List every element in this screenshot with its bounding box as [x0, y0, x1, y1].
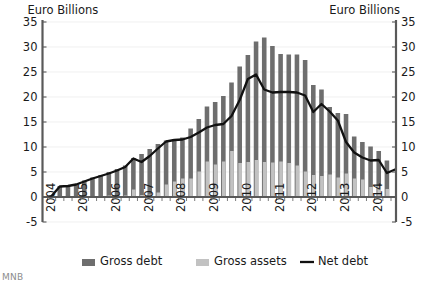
bar-gross-assets — [132, 190, 136, 198]
bar-gross-debt — [90, 178, 95, 198]
year-axis-label: 2014 — [371, 183, 385, 212]
bar-gross-debt — [98, 175, 103, 197]
bar-gross-assets — [222, 162, 226, 198]
right-axis-tick-label: 25 — [401, 65, 416, 79]
bar-gross-assets — [320, 176, 324, 197]
left-axis-tick-label: -5 — [26, 215, 37, 229]
year-axis-label: 2007 — [142, 183, 156, 212]
left-axis-unit-label: Euro Billions — [28, 3, 99, 17]
year-axis-label: 2010 — [240, 183, 254, 212]
right-axis-tick-label: 35 — [401, 15, 416, 29]
right-axis-tick-label: 0 — [401, 190, 408, 204]
source-note: MNB — [2, 272, 122, 283]
bar-gross-assets — [287, 163, 291, 197]
legend-swatch — [82, 259, 95, 266]
left-axis-tick-label: 30 — [23, 40, 38, 54]
year-axis-label: 2009 — [207, 183, 221, 212]
left-axis-tick-label: 25 — [23, 65, 38, 79]
legend-label: Gross assets — [214, 254, 287, 268]
bar-gross-assets — [353, 179, 357, 198]
bars-group — [49, 38, 389, 198]
legend-swatch — [196, 259, 209, 266]
left-axis-tick-label: 15 — [23, 115, 38, 129]
year-axis-label: 2012 — [305, 183, 319, 212]
bar-gross-debt — [123, 166, 128, 198]
bar-gross-assets — [328, 175, 332, 198]
year-axis-label: 2005 — [76, 183, 90, 212]
right-axis-tick-label: 10 — [401, 140, 416, 154]
right-axis-tick-label: 5 — [401, 165, 408, 179]
left-axis-tick-label: 0 — [30, 190, 37, 204]
legend-label: Gross debt — [100, 254, 163, 268]
year-axis-label: 2006 — [109, 183, 123, 212]
bar-gross-debt — [156, 144, 161, 197]
bar-gross-assets — [189, 179, 193, 198]
bar-gross-assets — [255, 160, 259, 197]
net-debt-chart: 3535303025252020151510105500-5-5Euro Bil… — [0, 0, 430, 287]
right-axis-tick-label: 20 — [401, 90, 416, 104]
year-axis-label: 2011 — [273, 183, 287, 212]
left-axis-tick-label: 20 — [23, 90, 38, 104]
bar-gross-assets — [361, 180, 365, 198]
bar-gross-assets — [386, 189, 390, 197]
year-axis-label: 2004 — [44, 183, 58, 212]
right-axis-tick-label: 15 — [401, 115, 416, 129]
left-axis-tick-label: 5 — [30, 165, 37, 179]
bar-gross-assets — [197, 172, 201, 198]
left-axis-tick-label: 10 — [23, 140, 38, 154]
left-axis-tick-label: 35 — [23, 15, 38, 29]
bar-gross-assets — [263, 162, 267, 197]
legend-label: Net debt — [318, 254, 369, 268]
right-axis-unit-label: Euro Billions — [329, 3, 400, 17]
bar-gross-assets — [165, 185, 169, 198]
chart-container: 3535303025252020151510105500-5-5Euro Bil… — [0, 0, 430, 287]
right-axis-tick-label: -5 — [401, 215, 412, 229]
bar-gross-assets — [296, 166, 300, 198]
right-axis-tick-label: 30 — [401, 40, 416, 54]
year-axis-label: 2013 — [338, 183, 352, 212]
bar-gross-assets — [230, 151, 234, 197]
year-axis-label: 2008 — [174, 183, 188, 212]
